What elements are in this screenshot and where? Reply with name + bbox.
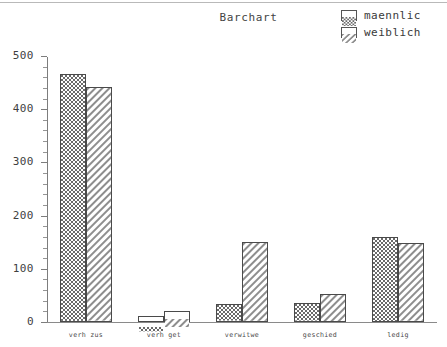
x-axis-label-geschied: geschied [283, 331, 357, 339]
y-axis-tick-major: 300 [41, 162, 47, 163]
y-axis-tick-label: 100 [13, 262, 34, 275]
y-axis-tick-minor [43, 194, 47, 195]
y-axis-tick-minor [43, 311, 47, 312]
y-axis-tick-label: 300 [13, 155, 34, 168]
chart-legend: maennlic weiblich [341, 8, 445, 42]
bar-weiblich-ledig [398, 243, 424, 322]
bar-weiblich-verh-get [164, 311, 190, 322]
y-axis-tick-minor [43, 120, 47, 121]
legend-label-maennlic: maennlic [364, 9, 421, 22]
y-axis-tick-major: 100 [41, 269, 47, 270]
y-axis-tick-label: 400 [13, 102, 34, 115]
y-axis-tick-minor [43, 173, 47, 174]
y-axis-tick-label: 0 [27, 315, 34, 328]
bar-maennlic-ledig [372, 237, 398, 322]
y-axis-tick-minor [43, 77, 47, 78]
y-axis-tick-major: 500 [41, 56, 47, 57]
y-axis-tick-minor [43, 248, 47, 249]
x-axis-label-verh-get: verh get [127, 331, 201, 339]
y-axis-tick-minor [43, 67, 47, 68]
y-axis-tick-minor [43, 301, 47, 302]
x-axis-label-verwitwe: verwitwe [205, 331, 279, 339]
y-axis-tick-minor [43, 258, 47, 259]
legend-label-weiblich: weiblich [364, 26, 421, 39]
y-axis-tick-minor [43, 99, 47, 100]
bar-maennlic-verh-zus [60, 74, 86, 322]
y-axis-tick-minor [43, 152, 47, 153]
y-axis-tick-minor [43, 205, 47, 206]
y-axis-tick-minor [43, 130, 47, 131]
bar-maennlic-geschied [294, 303, 320, 322]
barchart-figure: Barchart maennlic weiblich 0100200300400… [0, 0, 447, 347]
y-axis-line [47, 57, 48, 323]
legend-swatch-diagonal [341, 27, 357, 38]
y-axis-tick-minor [43, 88, 47, 89]
bar-weiblich-verh-zus [86, 87, 112, 322]
x-axis-label-ledig: ledig [361, 331, 435, 339]
y-axis-tick-major: 0 [41, 322, 47, 323]
y-axis-tick-label: 200 [13, 209, 34, 222]
y-axis-tick-minor [43, 226, 47, 227]
y-axis-tick-minor [43, 184, 47, 185]
legend-item-maennlic: maennlic [341, 8, 445, 23]
bar-maennlic-verwitwe [216, 304, 242, 322]
y-axis-tick-minor [43, 279, 47, 280]
plot-area: 0100200300400500 verh zusverh getverwitw… [47, 50, 437, 323]
chart-title-text: Barchart [220, 11, 278, 24]
x-axis-label-verh-zus: verh zus [49, 331, 123, 339]
y-axis-tick-minor [43, 237, 47, 238]
y-axis-tick-minor [43, 141, 47, 142]
y-axis-tick-major: 200 [41, 216, 47, 217]
bar-weiblich-geschied [320, 294, 346, 322]
bar-maennlic-verh-get [138, 316, 164, 322]
y-axis-tick-label: 500 [13, 49, 34, 62]
legend-item-weiblich: weiblich [341, 25, 445, 40]
bar-weiblich-verwitwe [242, 242, 268, 322]
y-axis-tick-major: 400 [41, 109, 47, 110]
legend-swatch-crosshatch [341, 10, 357, 21]
y-axis-tick-minor [43, 290, 47, 291]
